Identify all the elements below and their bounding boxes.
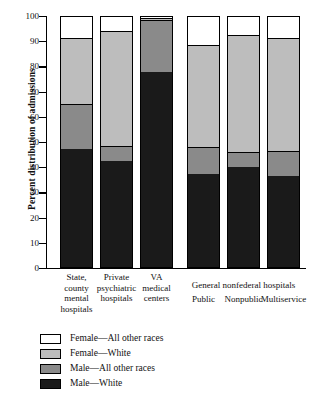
bar-segment — [188, 45, 219, 147]
legend-swatch — [40, 334, 61, 344]
y-tick-label: 40 — [0, 163, 39, 172]
bar-3[interactable] — [140, 16, 173, 268]
bar-segment — [228, 167, 259, 267]
bar-segment — [228, 152, 259, 167]
legend-label: Male—All other races — [70, 364, 155, 374]
y-tick-mark — [39, 41, 46, 42]
y-tick-mark — [39, 218, 46, 219]
legend-swatch — [40, 364, 61, 374]
y-tick-mark — [39, 192, 46, 193]
y-tick-label: 30 — [0, 188, 39, 197]
bar-segment — [188, 174, 219, 267]
bar-5[interactable] — [227, 16, 260, 268]
legend-label: Female—All other races — [70, 334, 163, 344]
bar-segment — [228, 35, 259, 152]
bar-6[interactable] — [267, 16, 300, 268]
bar-segment — [61, 16, 92, 38]
legend-item[interactable]: Male—White — [40, 376, 290, 391]
legend-item[interactable]: Male—All other races — [40, 361, 290, 376]
bar-segment — [61, 149, 92, 267]
y-tick-label: 50 — [0, 138, 39, 147]
legend-item[interactable]: Female—White — [40, 346, 290, 361]
bar-segment — [268, 38, 299, 151]
bar-segment — [101, 31, 132, 146]
chart-root: Percent distribution of admissions 10090… — [0, 0, 313, 393]
bar-segment — [141, 20, 172, 72]
x-axis-line — [46, 268, 306, 269]
bar-segment — [141, 72, 172, 267]
bar-segment — [188, 16, 219, 45]
y-tick-label: 60 — [0, 113, 39, 122]
bar-segment — [268, 151, 299, 176]
x-axis-label-line: hospitals — [49, 304, 105, 315]
y-tick-label: 100 — [0, 12, 39, 21]
bar-segment — [101, 146, 132, 161]
y-tick-label: 20 — [0, 214, 39, 223]
bar-segment — [61, 38, 92, 105]
y-tick-label: 90 — [0, 37, 39, 46]
bar-4[interactable] — [187, 16, 220, 268]
y-tick-mark — [39, 243, 46, 244]
x-axis-label-6: Multiservice — [256, 294, 312, 305]
legend-label: Female—White — [70, 349, 131, 359]
bar-segment — [61, 104, 92, 148]
bar-segment — [141, 18, 172, 21]
legend-item[interactable]: Female—All other races — [40, 331, 290, 346]
y-tick-mark — [39, 268, 46, 269]
bar-1[interactable] — [60, 16, 93, 268]
bar-segment — [268, 176, 299, 267]
legend-swatch — [40, 349, 61, 359]
y-tick-label: 70 — [0, 88, 39, 97]
y-tick-mark — [39, 117, 46, 118]
bar-segment — [268, 16, 299, 38]
x-axis-group-header: General nonfederal hospitals — [175, 280, 312, 291]
x-axis-labels: State,countymentalhospitalsPrivatepsychi… — [0, 272, 313, 330]
y-tick-mark — [39, 66, 46, 67]
y-tick-mark — [39, 92, 46, 93]
bar-segment — [228, 16, 259, 35]
y-tick-mark — [39, 142, 46, 143]
bar-segment — [101, 16, 132, 31]
chart-legend: Female—All other racesFemale—WhiteMale—A… — [40, 331, 290, 391]
y-tick-mark — [39, 167, 46, 168]
legend-swatch — [40, 379, 61, 389]
y-tick-mark — [39, 16, 46, 17]
x-axis-label-line: Multiservice — [256, 294, 312, 305]
legend-label: Male—White — [70, 379, 122, 389]
bar-segment — [101, 161, 132, 267]
bar-segment — [141, 16, 172, 18]
y-tick-label: 80 — [0, 62, 39, 71]
bar-2[interactable] — [100, 16, 133, 268]
plot-area: 1009080706050403020100 — [56, 16, 306, 268]
y-axis-line — [46, 16, 47, 268]
bar-segment — [188, 147, 219, 173]
y-tick-label: 10 — [0, 239, 39, 248]
